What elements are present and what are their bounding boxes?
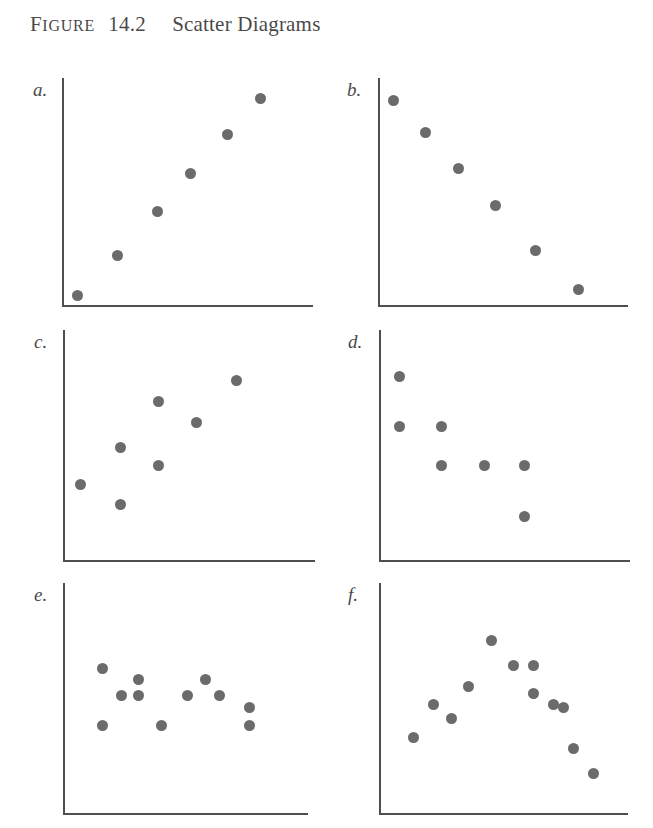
data-point	[152, 206, 163, 217]
y-axis-d	[379, 330, 381, 562]
y-axis-f	[379, 583, 381, 815]
data-point	[490, 200, 501, 211]
data-point	[436, 421, 447, 432]
data-point	[453, 163, 464, 174]
panel-label-d: d.	[348, 332, 362, 351]
data-point	[191, 417, 202, 428]
data-point	[153, 460, 164, 471]
data-point	[97, 663, 108, 674]
data-point	[394, 421, 405, 432]
data-point	[436, 460, 447, 471]
panel-label-c: c.	[34, 332, 47, 351]
y-axis-a	[62, 78, 64, 307]
figure-caption: Scatter Diagrams	[172, 12, 320, 36]
data-point	[231, 375, 242, 386]
data-point	[116, 690, 127, 701]
y-axis-b	[378, 78, 380, 307]
figure-word-initial: F	[30, 12, 42, 36]
data-point	[428, 699, 439, 710]
data-point	[97, 720, 108, 731]
data-point	[72, 290, 83, 301]
data-point	[388, 95, 399, 106]
x-axis-f	[379, 813, 628, 815]
data-point	[182, 690, 193, 701]
data-point	[244, 720, 255, 731]
data-point	[112, 250, 123, 261]
data-point	[530, 245, 541, 256]
data-point	[486, 635, 497, 646]
figure-title: FIGURE 14.2 Scatter Diagrams	[30, 12, 630, 46]
data-point	[394, 371, 405, 382]
data-point	[558, 702, 569, 713]
figure-number: 14.2	[108, 12, 146, 36]
y-axis-c	[63, 330, 65, 562]
data-point	[420, 127, 431, 138]
data-point	[528, 660, 539, 671]
data-point	[519, 511, 530, 522]
x-axis-a	[62, 305, 313, 307]
data-point	[185, 168, 196, 179]
data-point	[519, 460, 530, 471]
data-point	[244, 702, 255, 713]
data-point	[153, 396, 164, 407]
data-point	[214, 690, 225, 701]
data-point	[133, 690, 144, 701]
panel-label-f: f.	[348, 585, 358, 604]
data-point	[408, 732, 419, 743]
data-point	[463, 681, 474, 692]
data-point	[156, 720, 167, 731]
data-point	[200, 674, 211, 685]
data-point	[115, 442, 126, 453]
data-point	[255, 93, 266, 104]
data-point	[479, 460, 490, 471]
data-point	[568, 743, 579, 754]
x-axis-d	[379, 560, 630, 562]
data-point	[528, 688, 539, 699]
panel-label-e: e.	[34, 585, 47, 604]
data-point	[446, 713, 457, 724]
data-point	[508, 660, 519, 671]
x-axis-c	[63, 560, 315, 562]
panel-label-b: b.	[347, 80, 361, 99]
x-axis-e	[63, 813, 308, 815]
data-point	[133, 674, 144, 685]
data-point	[115, 499, 126, 510]
data-point	[588, 768, 599, 779]
data-point	[222, 129, 233, 140]
figure-word: FIGURE	[30, 12, 95, 36]
figure-word-smallcaps: IGURE	[42, 17, 95, 34]
data-point	[75, 479, 86, 490]
x-axis-b	[378, 305, 628, 307]
y-axis-e	[63, 583, 65, 815]
data-point	[573, 284, 584, 295]
panel-label-a: a.	[33, 80, 47, 99]
